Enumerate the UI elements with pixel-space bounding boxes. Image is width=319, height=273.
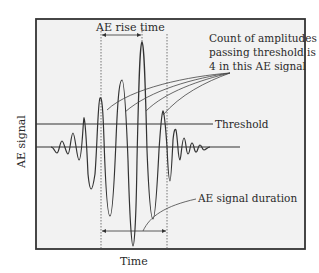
count-label-line1: Count of amplitudes <box>209 32 317 44</box>
threshold-label: Threshold <box>215 118 269 130</box>
count-label-line2: passing threshold is <box>209 46 316 58</box>
ae-signal-diagram: AE rise time Count of amplitudes passing… <box>0 0 319 273</box>
rise-time-label: AE rise time <box>95 21 165 34</box>
y-axis-label: AE signal <box>15 115 28 169</box>
count-label-line3: 4 in this AE signal <box>209 60 307 72</box>
x-axis-label: Time <box>120 255 148 268</box>
duration-label: AE signal duration <box>197 192 297 204</box>
